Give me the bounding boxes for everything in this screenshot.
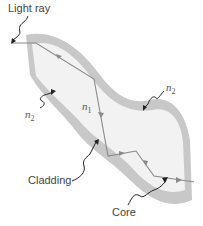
label-n2-top: n2: [166, 81, 176, 96]
fiber-core: [32, 43, 185, 192]
label-light-ray: Light ray: [8, 2, 51, 14]
fiber-optic-diagram: Light ray n2 n1 n2 Cladding Core: [0, 0, 203, 226]
label-n2-left: n2: [25, 108, 35, 123]
label-cladding: Cladding: [28, 174, 71, 186]
pointer-light-ray: [12, 16, 28, 41]
label-core: Core: [112, 206, 136, 218]
